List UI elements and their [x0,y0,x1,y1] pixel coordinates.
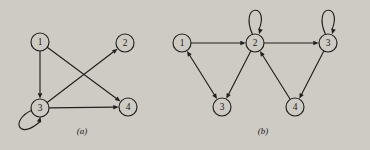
edge-b1-to-b3b[interactable] [187,51,217,99]
panels-layer: 1234(a)12334(b) [19,10,337,136]
node-label: 3 [326,38,331,48]
directed-graph-figure: 1234(a)12334(b) [0,0,370,150]
graph-node-a4[interactable]: 4 [119,98,137,116]
graph-panel-panel-a: 1234(a) [19,33,137,136]
graph-node-a3[interactable]: 3 [31,99,49,117]
graph-node-a1[interactable]: 1 [31,33,49,51]
self-loop-edge-b3r[interactable] [322,10,336,34]
arrowhead-icon [37,117,41,123]
graph-node-b4[interactable]: 4 [286,98,304,116]
edge-a3-to-a2[interactable] [47,49,117,103]
self-loop-edge-b2[interactable] [249,10,263,34]
edge-line [302,51,324,94]
edge-b2-to-b3b[interactable] [226,51,250,98]
node-label: 2 [123,38,128,48]
arrowhead-icon [187,51,192,57]
panel-caption-panel-b: (b) [258,126,269,136]
node-label: 3 [220,102,225,112]
graph-node-b1[interactable]: 1 [173,34,191,52]
edge-line [229,51,251,94]
graph-node-a2[interactable]: 2 [116,34,134,52]
arrowhead-icon [240,41,245,46]
edge-line [49,107,113,108]
edge-line [190,55,215,95]
node-label: 4 [293,102,298,112]
edge-line [48,48,117,99]
figure-container: 1234(a)12334(b) [0,0,370,150]
graph-node-b3b[interactable]: 3 [213,98,231,116]
node-label: 3 [38,103,43,113]
node-label: 2 [253,38,258,48]
graph-node-b2[interactable]: 2 [246,34,264,52]
node-label: 1 [180,38,185,48]
edge-line [263,55,290,99]
edge-b4-to-b2[interactable] [260,51,290,99]
edge-b3r-to-b4[interactable] [299,51,323,98]
arrowhead-icon [260,51,265,57]
arrowhead-icon [212,93,217,99]
nodes-layer-panel-b: 12334 [173,34,337,116]
arrowhead-icon [331,28,335,34]
panel-caption-panel-a: (a) [77,126,88,136]
edge-b2-to-b3r[interactable] [264,41,318,46]
arrowhead-icon [313,41,318,46]
edge-line [47,52,113,103]
node-label: 1 [38,37,43,47]
edge-a1-to-a3[interactable] [38,51,43,98]
node-label: 4 [126,102,131,112]
graph-node-b3r[interactable]: 3 [319,34,337,52]
edges-layer-panel-a [19,48,121,130]
edge-b1-to-b2[interactable] [191,41,245,46]
arrowhead-icon [258,28,262,34]
edges-layer-panel-b [187,10,336,99]
arrowhead-icon [38,93,43,98]
edge-a3-to-a4[interactable] [49,105,118,109]
arrowhead-icon [113,105,118,109]
graph-panel-panel-b: 12334(b) [173,10,337,136]
